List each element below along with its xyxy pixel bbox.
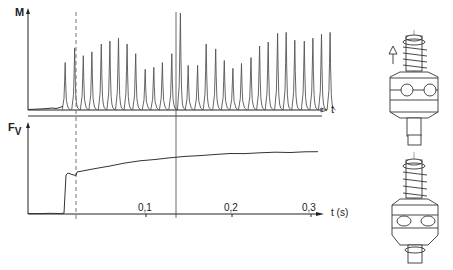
torque-peak xyxy=(133,54,142,110)
torque-peak xyxy=(142,69,151,110)
torque-peak xyxy=(124,44,133,110)
bottom-y-axis-label: FV xyxy=(8,122,21,133)
x-tick-label-0-3: 0,3 xyxy=(302,203,316,213)
tool-holder-bottom-illustration xyxy=(392,135,438,263)
torque-peak xyxy=(257,46,266,110)
torque-peak xyxy=(239,63,248,110)
bottom-y-axis-arrow-icon xyxy=(26,122,30,128)
torque-peak xyxy=(159,63,168,111)
torque-peak xyxy=(248,58,257,110)
bottom-chart xyxy=(26,122,324,217)
torque-peak xyxy=(107,41,116,110)
torque-peak xyxy=(265,42,274,110)
torque-peak xyxy=(327,32,336,110)
top-x-axis-label: t xyxy=(331,104,334,115)
torque-peak xyxy=(319,34,328,110)
top-y-axis-arrow-icon xyxy=(26,8,30,14)
top-chart xyxy=(26,8,336,116)
torque-peak xyxy=(80,56,89,110)
torque-peak xyxy=(177,13,186,110)
torque-peak xyxy=(203,44,212,110)
torque-peak xyxy=(230,68,239,110)
torque-peak xyxy=(195,65,204,110)
torque-peak xyxy=(116,38,125,110)
bottom-x-axis-arrow-icon xyxy=(316,212,324,216)
torque-peak xyxy=(151,67,160,110)
x-tick-label-0-1: 0,1 xyxy=(138,203,152,213)
torque-peak xyxy=(301,41,310,110)
torque-peak xyxy=(213,49,222,110)
torque-peak xyxy=(221,61,230,111)
force-curve xyxy=(28,152,318,214)
torque-peak xyxy=(275,33,284,110)
torque-peak xyxy=(283,32,292,110)
torque-peak xyxy=(62,63,70,111)
torque-peaks xyxy=(62,13,335,110)
bottom-x-axis-label: t (s) xyxy=(331,208,348,218)
bottom-y-axis-label-main: F xyxy=(8,121,15,133)
torque-peak xyxy=(98,44,107,110)
bottom-y-axis-label-sub: V xyxy=(15,126,22,137)
torque-peak xyxy=(310,38,319,110)
torque-peak xyxy=(89,52,98,110)
x-tick-label-0-2: 0,2 xyxy=(224,203,238,213)
top-y-axis-label: M xyxy=(15,7,24,18)
torque-peak xyxy=(292,40,301,110)
torque-baseline-noise xyxy=(28,106,63,110)
tool-holder-top-illustration xyxy=(389,30,438,136)
torque-peak xyxy=(185,65,194,110)
figure xyxy=(0,0,453,270)
